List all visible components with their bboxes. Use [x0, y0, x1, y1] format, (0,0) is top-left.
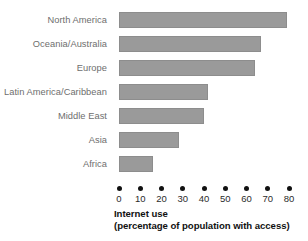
bar: [119, 156, 153, 172]
category-label: Latin America/Caribbean: [4, 87, 107, 97]
x-axis-tick-label: 40: [193, 194, 215, 204]
tick-dot-marker-icon: [180, 186, 185, 191]
category-label: Oceania/Australia: [33, 39, 107, 49]
x-axis-tick: 40: [193, 186, 215, 204]
bar: [119, 60, 255, 76]
x-axis-tick: 70: [257, 186, 279, 204]
x-axis-tick-label: 0: [108, 194, 130, 204]
axis-title-line-2: (percentage of population with access): [114, 220, 308, 232]
bar-row: [119, 12, 289, 28]
category-row: Asia: [0, 132, 112, 148]
x-axis: 01020304050607080: [119, 186, 289, 208]
category-row: Africa: [0, 156, 112, 172]
x-axis-tick: 0: [108, 186, 130, 204]
x-axis-tick-label: 80: [278, 194, 300, 204]
x-axis-tick: 50: [214, 186, 236, 204]
bar: [119, 108, 204, 124]
axis-title-line-1: Internet use: [114, 208, 308, 220]
tick-dot-marker-icon: [244, 186, 249, 191]
bar: [119, 132, 179, 148]
category-row: Middle East: [0, 108, 112, 124]
category-row: North America: [0, 12, 112, 28]
category-axis: North AmericaOceania/AustraliaEuropeLati…: [0, 12, 112, 180]
x-axis-tick-label: 50: [214, 194, 236, 204]
x-axis-tick: 80: [278, 186, 300, 204]
x-axis-tick-label: 60: [236, 194, 258, 204]
x-axis-tick-label: 10: [129, 194, 151, 204]
bar-row: [119, 132, 289, 148]
tick-dot-marker-icon: [223, 186, 228, 191]
x-axis-tick-label: 20: [151, 194, 173, 204]
plot-area: [119, 12, 289, 180]
category-label: Middle East: [58, 111, 107, 121]
category-label: Europe: [77, 63, 107, 73]
bar: [119, 12, 287, 28]
x-axis-tick-label: 30: [172, 194, 194, 204]
category-row: Europe: [0, 60, 112, 76]
category-label: North America: [47, 15, 107, 25]
tick-dot-marker-icon: [202, 186, 207, 191]
tick-dot-marker-icon: [159, 186, 164, 191]
bar-row: [119, 108, 289, 124]
category-row: Oceania/Australia: [0, 36, 112, 52]
bar-row: [119, 84, 289, 100]
tick-dot-marker-icon: [265, 186, 270, 191]
tick-dot-marker-icon: [138, 186, 143, 191]
x-axis-tick: 60: [236, 186, 258, 204]
bar-row: [119, 60, 289, 76]
x-axis-tick: 30: [172, 186, 194, 204]
bar-row: [119, 156, 289, 172]
internet-use-bar-chart: North AmericaOceania/AustraliaEuropeLati…: [0, 0, 308, 241]
x-axis-tick-label: 70: [257, 194, 279, 204]
category-label: Africa: [83, 159, 107, 169]
category-row: Latin America/Caribbean: [0, 84, 112, 100]
category-label: Asia: [89, 135, 107, 145]
bar: [119, 36, 261, 52]
axis-title: Internet use (percentage of population w…: [114, 208, 308, 232]
bar: [119, 84, 208, 100]
bar-row: [119, 36, 289, 52]
tick-dot-marker-icon: [287, 186, 292, 191]
x-axis-tick: 10: [129, 186, 151, 204]
x-axis-tick: 20: [151, 186, 173, 204]
tick-dot-marker-icon: [117, 186, 122, 191]
